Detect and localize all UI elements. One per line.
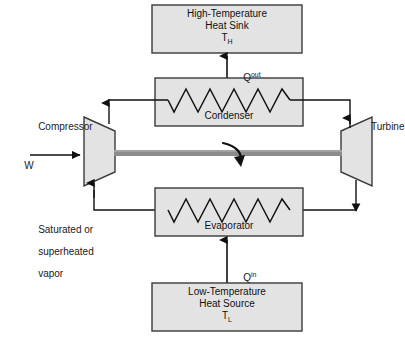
- heat-sink-symbol: TH: [221, 32, 232, 43]
- heat-out-label: Qout: [232, 58, 261, 94]
- heat-source-line2: Heat Source: [199, 298, 255, 309]
- heat-source-symbol: TL: [222, 310, 232, 321]
- turbine-label: Turbine: [360, 110, 404, 143]
- heat-source-line1: Low-Temperature: [188, 286, 266, 297]
- cycle-diagram: High-Temperature Heat Sink TH Qout Conde…: [0, 0, 405, 339]
- pipe-turbine-exit-arrowhead: [352, 203, 361, 212]
- heat-source-label: Low-Temperature Heat Source TL: [152, 286, 302, 326]
- evaporator-label: Evaporator: [155, 220, 303, 232]
- shaft-rotation-arrowhead: [234, 155, 245, 167]
- work-input-label: W: [13, 149, 34, 182]
- compressor-label: Compressor: [27, 110, 93, 143]
- vapor-note-label: Saturated or superheated vapor: [27, 213, 94, 290]
- heat-sink-label: High-Temperature Heat Sink TH: [152, 8, 302, 48]
- heat-sink-line2: Heat Sink: [205, 20, 248, 31]
- condenser-label: Condenser: [155, 110, 303, 122]
- heat-sink-line1: High-Temperature: [187, 8, 267, 19]
